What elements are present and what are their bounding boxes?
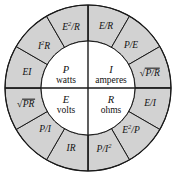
ring-label-i-p-over-e: P/E	[124, 41, 138, 51]
inner-unit-voltage: volts	[57, 106, 75, 116]
formula-denominator: R	[74, 22, 80, 32]
ring-label-i-sqrt-p-over-r: √P/R	[140, 68, 160, 79]
ring-label-e-ir: IR	[67, 144, 76, 154]
formula-exponent: 2	[68, 20, 71, 27]
inner-label-current: I amperes	[95, 65, 127, 85]
inner-label-voltage: E volts	[57, 95, 75, 115]
ring-label-e-sqrt-pr: √PR	[17, 99, 35, 110]
wheel-graphic	[0, 0, 176, 175]
ring-label-p-i2-r: I2R	[38, 40, 50, 52]
radicand: P/R	[145, 68, 160, 79]
inner-unit-power: watts	[56, 76, 76, 86]
inner-label-resistance: R ohms	[101, 95, 122, 115]
inner-unit-current: amperes	[95, 76, 127, 86]
formula-numerator: P/I	[97, 144, 109, 154]
formula-exponent: 2	[108, 142, 111, 149]
ring-label-p-ei: EI	[23, 68, 32, 78]
formula-tail: R	[44, 41, 50, 51]
ring-label-p-e2-over-r: E2/R	[62, 21, 80, 33]
ring-label-r-e2-over-p: E2/P	[122, 124, 140, 136]
ring-label-e-p-over-i: P/I	[39, 125, 51, 135]
formula-denominator: P	[134, 125, 140, 135]
radicand: PR	[22, 99, 35, 110]
formula-exponent: 2	[128, 123, 131, 130]
ring-label-i-e-over-r: E/R	[99, 22, 113, 32]
ring-label-r-e-over-i: E/I	[144, 99, 156, 109]
inner-unit-resistance: ohms	[101, 106, 122, 116]
inner-label-power: P watts	[56, 65, 76, 85]
ring-label-r-p-over-i2: P/I2	[97, 143, 112, 155]
ohms-law-wheel-diagram: P watts I amperes E volts R ohms E2/R I2…	[0, 0, 176, 175]
